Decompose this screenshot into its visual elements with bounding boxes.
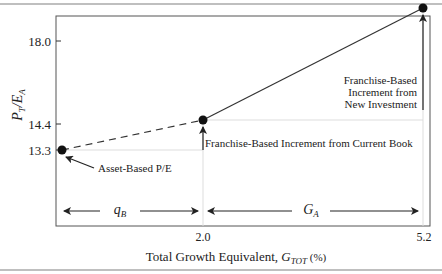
label-new-investment-2: Increment from <box>348 86 417 98</box>
span-qb: qB <box>64 202 198 219</box>
svg-text:GA: GA <box>303 202 319 219</box>
point-new-investment <box>419 4 428 13</box>
y-axis-label: PT/EA <box>10 89 27 122</box>
dashed-segment <box>62 120 203 150</box>
svg-text:PT/EA: PT/EA <box>10 89 27 122</box>
label-new-investment-3: New Investment <box>345 98 417 110</box>
y-tick-13-3: 13.3 <box>28 143 51 158</box>
point-current-book <box>199 116 208 125</box>
plot-frame <box>56 16 430 226</box>
reference-lines <box>62 8 423 226</box>
label-current-book: Franchise-Based Increment from Current B… <box>205 137 413 149</box>
y-tick-14-4: 14.4 <box>28 117 51 132</box>
chart: 18.0 14.4 13.3 PT/EA Asset-Based P/E Fra… <box>0 0 442 274</box>
x-tick-5-2: 5.2 <box>417 230 432 244</box>
point-asset-based <box>58 146 67 155</box>
arrow-asset-based <box>66 157 94 168</box>
svg-text:qB: qB <box>114 202 127 219</box>
x-tick-2-0: 2.0 <box>196 230 211 244</box>
span-ga: GA <box>208 202 418 219</box>
x-axis-label: Total Growth Equivalent, GTOT (%) <box>146 249 327 266</box>
label-new-investment-1: Franchise-Based <box>344 74 418 86</box>
label-asset-based: Asset-Based P/E <box>98 162 172 174</box>
y-tick-18: 18.0 <box>28 34 51 49</box>
